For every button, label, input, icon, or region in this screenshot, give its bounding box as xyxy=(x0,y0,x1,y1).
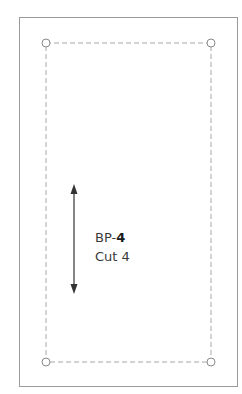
seam-allowance-line xyxy=(46,43,211,362)
grainline-arrow-icon xyxy=(71,184,78,294)
cut-count: Cut 4 xyxy=(95,247,130,266)
corner-marker-icon xyxy=(42,358,50,366)
piece-prefix: BP- xyxy=(95,230,116,245)
corner-marker-icon xyxy=(207,358,215,366)
piece-label: BP-4 Cut 4 xyxy=(95,228,130,266)
corner-marker-icon xyxy=(42,39,50,47)
pattern-diagram xyxy=(0,0,242,394)
piece-number: 4 xyxy=(116,230,125,245)
piece-id: BP-4 xyxy=(95,228,130,247)
corner-marker-icon xyxy=(207,39,215,47)
